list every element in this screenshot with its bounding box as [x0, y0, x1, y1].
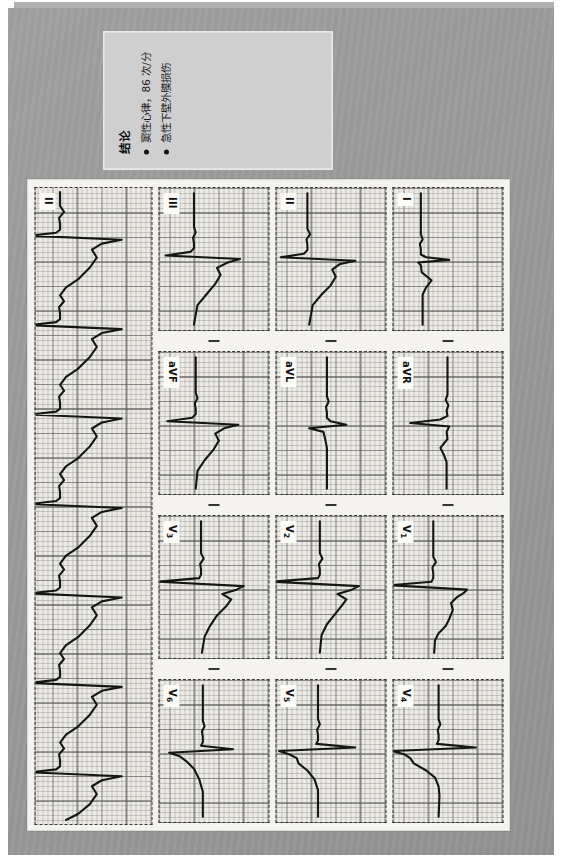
lead-label-aVF: aVF: [163, 357, 179, 388]
lead-label-III: III: [163, 193, 179, 214]
ecg-panel-V2: V2: [275, 515, 386, 659]
lead-label-V4: V4: [397, 685, 413, 707]
calibration-tick-icon: [208, 340, 219, 342]
ecg-panel-aVR: aVR: [392, 351, 503, 495]
calibration-tick-icon: [442, 340, 453, 342]
conclusion-rotated-content: 结论 窦性心律，86 次/分 急性下壁外膜损伤: [104, 32, 332, 169]
row-tick-separator: [275, 338, 386, 344]
ecg-row-1: I aVR V1: [392, 187, 503, 823]
ecg-panel-aVL: aVL: [275, 351, 386, 495]
ecg-panel-V3: V3: [158, 515, 269, 659]
lead-label-rhythm-II: II: [39, 193, 55, 210]
lead-label-II: II: [280, 193, 296, 210]
ecg-row-3: III aVF V3: [158, 187, 269, 823]
ecg-panel-V6: V6: [158, 679, 269, 823]
ecg-rotated-canvas: I aVR V1: [28, 180, 509, 830]
calibration-tick-icon: [325, 504, 336, 506]
lead-label-V3: V3: [163, 521, 179, 543]
list-item: 窦性心律，86 次/分: [140, 52, 153, 155]
calibration-tick-icon: [208, 668, 219, 670]
ecg-trace-rhythm-II: [34, 188, 151, 824]
conclusion-title: 结论: [116, 129, 132, 153]
ecg-panel-II: II: [275, 187, 386, 331]
row-tick-separator: [392, 666, 503, 672]
row-tick-separator: [158, 338, 269, 344]
row-tick-separator: [275, 502, 386, 508]
ecg-panel-V4: V4: [392, 679, 503, 823]
lead-label-I: I: [397, 193, 413, 206]
row-tick-separator: [158, 502, 269, 508]
row-tick-separator: [392, 338, 503, 344]
ecg-paper-sheet: I aVR V1: [27, 179, 510, 831]
ecg-panel-I: I: [392, 187, 503, 331]
calibration-tick-icon: [325, 340, 336, 342]
row-tick-separator: [392, 502, 503, 508]
lead-label-V6: V6: [163, 685, 179, 707]
ecg-panel-V5: V5: [275, 679, 386, 823]
list-item: 急性下壁外膜损伤: [160, 52, 173, 155]
lead-label-V5: V5: [280, 685, 296, 707]
lead-label-V1: V1: [397, 521, 413, 543]
ecg-panel-rhythm-II: II: [34, 187, 152, 825]
ecg-panel-V1: V1: [392, 515, 503, 659]
row-tick-separator: [275, 666, 386, 672]
ecg-report-page: 结论 窦性心律，86 次/分 急性下壁外膜损伤 I: [0, 0, 562, 863]
calibration-tick-icon: [208, 504, 219, 506]
conclusion-box: 结论 窦性心律，86 次/分 急性下壁外膜损伤: [103, 31, 333, 170]
calibration-tick-icon: [442, 668, 453, 670]
ecg-trace-I: [392, 188, 502, 330]
row-tick-separator: [158, 666, 269, 672]
calibration-tick-icon: [325, 668, 336, 670]
ecg-row-2: II aVL V2: [275, 187, 386, 823]
lead-label-aVL: aVL: [280, 357, 296, 387]
ecg-panel-aVF: aVF: [158, 351, 269, 495]
lead-label-aVR: aVR: [397, 357, 413, 389]
conclusion-list: 窦性心律，86 次/分 急性下壁外膜损伤: [140, 52, 180, 155]
lead-label-V2: V2: [280, 521, 296, 543]
calibration-tick-icon: [442, 504, 453, 506]
ecg-rhythm-row: II: [34, 187, 152, 823]
ecg-panel-III: III: [158, 187, 269, 331]
